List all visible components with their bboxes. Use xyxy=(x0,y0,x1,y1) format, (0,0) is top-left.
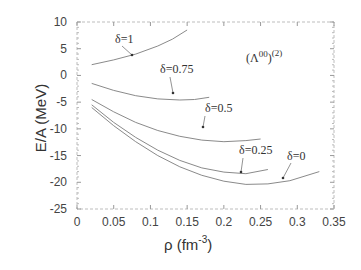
y-tick-label: -15 xyxy=(50,149,68,163)
x-tick-label: 0.25 xyxy=(249,215,273,229)
y-tick-label: -5 xyxy=(56,95,67,109)
x-tick-label: 0.35 xyxy=(322,215,346,229)
energy-density-chart: 1050-5-10-15-20-25 00.050.10.150.20.250.… xyxy=(0,0,361,270)
curve-δ=0.5 xyxy=(92,100,261,142)
y-tick-label: -10 xyxy=(50,122,68,136)
curve-δ=0.75 xyxy=(92,83,210,100)
curve-label: δ=0.25 xyxy=(239,143,272,157)
plot-frame xyxy=(77,22,334,209)
y-axis-title: E/A (MeV) xyxy=(32,84,49,152)
curve-δ=1 xyxy=(92,30,187,65)
x-tick-label: 0 xyxy=(74,215,81,229)
curve-label: δ=0.75 xyxy=(160,62,193,76)
y-tick-label: 5 xyxy=(60,42,67,56)
curve-label: δ=0.5 xyxy=(205,101,232,115)
x-tick-label: 0.3 xyxy=(289,215,306,229)
x-tick-label: 0.1 xyxy=(142,215,159,229)
x-axis-ticks: 00.050.10.150.20.250.30.35 xyxy=(74,22,346,229)
curve-label: δ=0 xyxy=(287,149,305,163)
x-tick-label: 0.2 xyxy=(216,215,233,229)
y-tick-label: 0 xyxy=(60,68,67,82)
y-tick-label: 10 xyxy=(54,15,68,29)
curve-δ=0 xyxy=(92,108,320,185)
y-axis-ticks: 1050-5-10-15-20-25 xyxy=(50,15,334,216)
x-tick-label: 0.05 xyxy=(102,215,126,229)
x-tick-label: 0.15 xyxy=(175,215,199,229)
y-tick-label: -25 xyxy=(50,202,68,216)
x-axis-title: ρ (fm-3) xyxy=(164,234,212,253)
curve-δ=0.25 xyxy=(92,105,268,174)
y-tick-label: -20 xyxy=(50,175,68,189)
model-annotation: (Λ00)(2) xyxy=(246,48,282,65)
curve-label: δ=1 xyxy=(115,32,133,46)
